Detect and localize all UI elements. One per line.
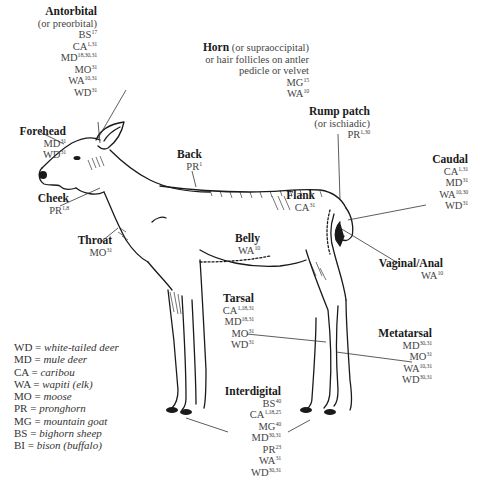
gland-name: Throat — [78, 235, 112, 247]
gland-entry: MD31 — [432, 177, 468, 189]
gland-forehead: Forehead MD31 WD31 — [20, 126, 66, 161]
gland-name: Horn — [203, 41, 229, 53]
gland-entry: PR1 — [177, 161, 202, 173]
gland-tarsal: Tarsal CA1,18,31 MD18,31 MO31 WD31 — [223, 293, 254, 351]
gland-entry: MD31 — [20, 138, 66, 150]
gland-entry: WD31 — [20, 149, 66, 161]
gland-entry: PR1,30 — [309, 129, 370, 141]
gland-vaginal-anal: Vaginal/Anal WA10 — [379, 258, 443, 281]
gland-name: Interdigital — [225, 386, 281, 398]
gland-entry: WD30,31 — [378, 374, 432, 386]
gland-name: Flank — [286, 190, 315, 202]
gland-entry: MD30,31 — [378, 340, 432, 352]
gland-entry: BS17 — [38, 29, 97, 41]
gland-entry: WA10 — [203, 88, 309, 100]
gland-entry: MO31 — [223, 328, 254, 340]
gland-entry: WA31 — [225, 455, 281, 467]
legend-row: BI = bison (buffalo) — [14, 439, 119, 451]
legend-row: BS = bighorn sheep — [14, 427, 119, 439]
gland-horn: Horn (or supraoccipital) or hair follicl… — [203, 42, 309, 100]
gland-antorbital: Antorbital (or preorbital) BS17 CA1,31 M… — [38, 6, 97, 98]
legend-row: WD = white-tailed deer — [14, 341, 119, 353]
gland-entry: WA10 — [235, 245, 260, 257]
gland-entry: CA1,18,25 — [225, 409, 281, 421]
deer-chest — [148, 262, 172, 290]
gland-entry: PR1,8 — [38, 205, 69, 217]
gland-metatarsal: Metatarsal MD30,31 MO31 WA10,31 WD30,31 — [378, 328, 432, 386]
gland-caudal: Caudal CA1,31 MD31 WA10,30 WD31 — [432, 154, 468, 212]
gland-name: Belly — [235, 233, 260, 245]
gland-name: Caudal — [432, 154, 468, 166]
legend-row: MD = mule deer — [14, 353, 119, 365]
gland-entry: MD18,30,31 — [38, 52, 97, 64]
gland-entry: MD18,31 — [223, 316, 254, 328]
gland-name: Cheek — [38, 193, 69, 205]
gland-name: Metatarsal — [378, 328, 432, 340]
gland-entry: PR23 — [225, 444, 281, 456]
deer-muzzle — [39, 168, 76, 189]
gland-entry: CA31 — [286, 202, 315, 214]
gland-entry: WD31 — [432, 200, 468, 212]
species-legend: WD = white-tailed deer MD = mule deer CA… — [14, 341, 119, 452]
gland-entry: WA10,31 — [38, 75, 97, 87]
gland-entry: BS40 — [225, 398, 281, 410]
gland-subtitle: (or preorbital) — [38, 18, 97, 30]
gland-flank: Flank CA31 — [286, 190, 315, 213]
gland-entry: WA10,31 — [378, 363, 432, 375]
gland-subtitle-2: pedicle or velvet — [203, 65, 309, 77]
gland-entry: WD31 — [223, 339, 254, 351]
gland-entry: CA1,18,31 — [223, 305, 254, 317]
gland-entry: WD31 — [38, 87, 97, 99]
gland-interdigital: Interdigital BS40 CA1,18,25 MG40 MD30,31… — [225, 386, 281, 478]
gland-subtitle: or hair follicles on antler — [203, 54, 309, 66]
gland-subtitle: (or ischiadic) — [309, 118, 370, 130]
legend-row: WA = wapiti (elk) — [14, 378, 119, 390]
gland-name: Tarsal — [223, 293, 254, 305]
gland-entry: MG40 — [225, 421, 281, 433]
gland-entry: CA1,31 — [38, 41, 97, 53]
legend-row: MG = mountain goat — [14, 415, 119, 427]
deer-back — [160, 186, 346, 208]
gland-cheek: Cheek PR1,8 — [38, 193, 69, 216]
gland-entry: MD30,31 — [225, 432, 281, 444]
gland-throat: Throat MO31 — [78, 235, 112, 258]
gland-name: Rump patch — [309, 106, 370, 118]
gland-entry: MO31 — [78, 247, 112, 259]
deer-tail — [335, 222, 344, 246]
gland-entry: WA10 — [379, 270, 443, 282]
gland-name: Back — [177, 149, 202, 161]
gland-belly: Belly WA10 — [235, 233, 260, 256]
gland-entry: MG15 — [203, 77, 309, 89]
gland-name: Forehead — [20, 126, 66, 138]
gland-entry: CA1,31 — [432, 166, 468, 178]
gland-name: Antorbital — [38, 6, 97, 18]
deer-hind-leg — [346, 300, 352, 410]
gland-name: Vaginal/Anal — [379, 258, 443, 270]
gland-entry: MO31 — [378, 351, 432, 363]
legend-row: CA = caribou — [14, 366, 119, 378]
legend-row: PR = pronghorn — [14, 402, 119, 414]
gland-back: Back PR1 — [177, 149, 202, 172]
gland-entry: WD30,31 — [225, 467, 281, 479]
gland-entry: WA10,30 — [432, 189, 468, 201]
legend-row: MO = moose — [14, 390, 119, 402]
deer-ear — [96, 122, 124, 149]
gland-entry: MO31 — [38, 64, 97, 76]
gland-rump-patch: Rump patch (or ischiadic) PR1,30 — [309, 106, 370, 141]
